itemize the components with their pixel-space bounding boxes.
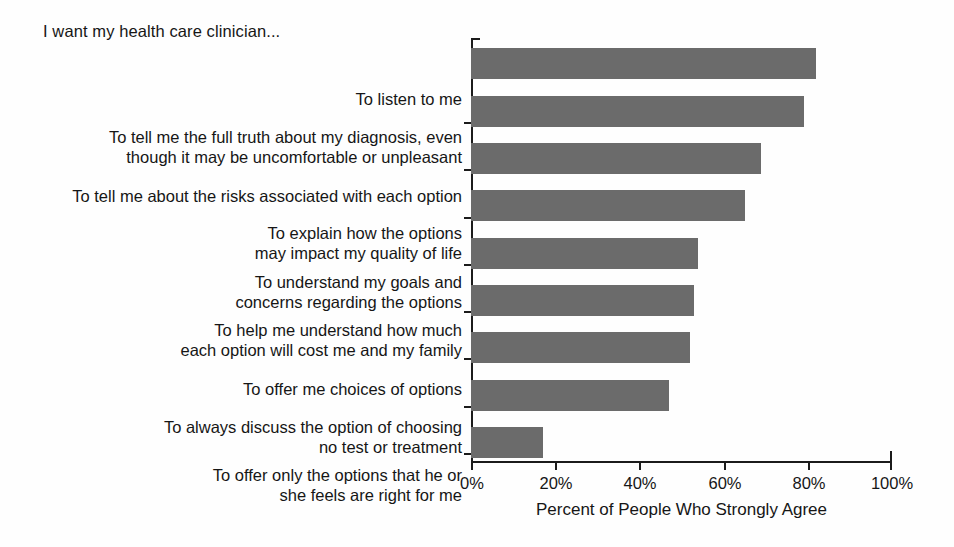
x-axis-title: Percent of People Who Strongly Agree bbox=[471, 500, 892, 520]
category-axis-top-cap bbox=[471, 38, 480, 40]
value-tick-label-40: 40% bbox=[623, 474, 656, 493]
bar-8 bbox=[471, 427, 543, 458]
bar-1 bbox=[471, 96, 804, 127]
bar-3 bbox=[471, 190, 745, 221]
category-label-0: To listen to me bbox=[356, 89, 462, 109]
value-tick-80 bbox=[808, 461, 810, 470]
value-tick-20 bbox=[555, 461, 557, 470]
plot-area: 0% 20% 40% 60% 80% 100% bbox=[471, 38, 892, 461]
value-tick-label-100: 100% bbox=[871, 474, 913, 493]
value-axis-line bbox=[471, 461, 892, 463]
bar-6 bbox=[471, 332, 690, 363]
category-label-7: To always discuss the option of choosing… bbox=[164, 417, 462, 457]
category-label-6: To offer me choices of options bbox=[243, 379, 462, 399]
chart-figure: I want my health care clinician... To li… bbox=[0, 0, 954, 547]
category-label-3: To explain how the options may impact my… bbox=[255, 223, 462, 263]
category-label-4: To understand my goals and concerns rega… bbox=[235, 272, 462, 312]
bar-7 bbox=[471, 380, 669, 411]
bar-2 bbox=[471, 143, 761, 174]
value-tick-60 bbox=[724, 461, 726, 470]
category-label-2: To tell me about the risks associated wi… bbox=[72, 186, 462, 206]
category-axis-labels: To listen to me To tell me the full trut… bbox=[0, 38, 462, 461]
value-tick-label-20: 20% bbox=[539, 474, 572, 493]
category-label-1: To tell me the full truth about my diagn… bbox=[109, 127, 462, 167]
value-tick-40 bbox=[639, 461, 641, 470]
value-tick-label-0: 0% bbox=[460, 474, 484, 493]
value-tick-100 bbox=[890, 461, 892, 470]
value-tick-label-80: 80% bbox=[792, 474, 825, 493]
value-tick-0 bbox=[471, 461, 473, 470]
value-tick-label-60: 60% bbox=[708, 474, 741, 493]
bar-0 bbox=[471, 48, 816, 79]
category-label-8: To offer only the options that he or she… bbox=[213, 465, 462, 505]
bar-5 bbox=[471, 285, 694, 316]
category-label-5: To help me understand how much each opti… bbox=[180, 320, 462, 360]
bar-4 bbox=[471, 238, 698, 269]
